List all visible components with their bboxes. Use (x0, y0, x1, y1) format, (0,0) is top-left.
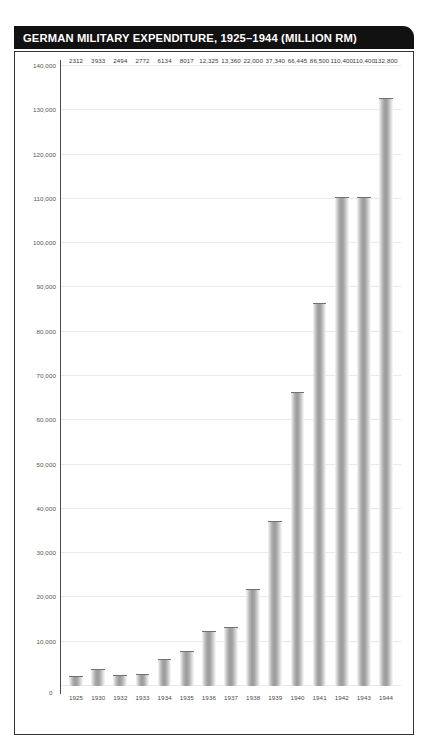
ytick-label: 100,000 (33, 239, 56, 246)
bar-slot: 12,325 (198, 66, 220, 686)
x-axis-tick-label: 1938 (242, 694, 264, 708)
x-axis-tick-label: 1935 (176, 694, 198, 708)
bar-value-label: 2494 (113, 57, 127, 64)
x-axis-tick-label: 1933 (131, 694, 153, 708)
chart-frame: 10,00020,00030,00040,00050,00060,00070,0… (14, 51, 414, 735)
plot-area: 10,00020,00030,00040,00050,00060,00070,0… (61, 66, 401, 686)
bar-value-label: 110,400 (330, 57, 353, 64)
bar-value-label: 37,340 (266, 57, 286, 64)
bar-value-label: 6134 (158, 57, 172, 64)
bar[interactable]: 2312 (69, 676, 83, 686)
chart-page: GERMAN MILITARY EXPENDITURE, 1925–1944 (… (0, 0, 428, 751)
ytick-label: 120,000 (33, 150, 56, 157)
ytick-label: 110,000 (33, 194, 56, 201)
bar-slot: 132,800 (375, 66, 397, 686)
bar[interactable]: 6134 (158, 659, 172, 686)
x-axis-tick-label: 1944 (375, 694, 397, 708)
page-title: GERMAN MILITARY EXPENDITURE, 1925–1944 (… (23, 32, 357, 44)
ytick-label-zero: 0 (49, 689, 52, 696)
bar[interactable]: 12,325 (202, 631, 216, 686)
bars-group: 23123933249427726134801712,32513,36022,0… (61, 66, 401, 686)
ytick-label: 130,000 (33, 106, 56, 113)
bar[interactable]: 66,445 (291, 392, 305, 686)
x-axis-tick-label: 1943 (353, 694, 375, 708)
bar[interactable]: 13,360 (224, 627, 238, 686)
bar-value-label: 86,500 (310, 57, 330, 64)
bar-slot: 2494 (109, 66, 131, 686)
x-axis-tick-label: 1932 (109, 694, 131, 708)
x-axis-tick-label: 1941 (309, 694, 331, 708)
plot-wrapper: 10,00020,00030,00040,00050,00060,00070,0… (15, 52, 413, 734)
bar[interactable]: 22,000 (246, 589, 260, 686)
ytick-label: 70,000 (36, 372, 56, 379)
x-axis-tick-label: 1937 (220, 694, 242, 708)
x-axis-tick-label: 1940 (286, 694, 308, 708)
bar-value-label: 132,800 (374, 57, 397, 64)
bar-slot: 22,000 (242, 66, 264, 686)
ytick-label: 80,000 (36, 327, 56, 334)
bar-value-label: 8017 (180, 57, 194, 64)
bar-slot: 2312 (65, 66, 87, 686)
bar[interactable]: 110,400 (357, 197, 371, 686)
bar[interactable]: 8017 (180, 651, 194, 687)
ytick-label: 140,000 (33, 62, 56, 69)
bar-slot: 37,340 (264, 66, 286, 686)
ytick-label: 40,000 (36, 504, 56, 511)
ytick-label: 90,000 (36, 283, 56, 290)
bar[interactable]: 2772 (136, 674, 150, 686)
x-axis-tick-label: 1939 (264, 694, 286, 708)
bar-slot: 66,445 (286, 66, 308, 686)
chart-title-bar: GERMAN MILITARY EXPENDITURE, 1925–1944 (… (14, 26, 414, 49)
ytick-label: 60,000 (36, 416, 56, 423)
bar-value-label: 13,360 (221, 57, 241, 64)
bar[interactable]: 2494 (113, 675, 127, 686)
bar-value-label: 110,400 (353, 57, 376, 64)
bar[interactable]: 37,340 (268, 521, 282, 686)
x-axis-tick-label: 1936 (198, 694, 220, 708)
ytick-label: 30,000 (36, 549, 56, 556)
x-axis-tick-label: 1925 (65, 694, 87, 708)
x-axis-tick-label: 1942 (331, 694, 353, 708)
bar[interactable]: 86,500 (313, 303, 327, 686)
bar-value-label: 3933 (91, 57, 105, 64)
bar-slot: 2772 (131, 66, 153, 686)
bar-slot: 3933 (87, 66, 109, 686)
ytick-label: 20,000 (36, 593, 56, 600)
bar-value-label: 12,325 (199, 57, 219, 64)
bar-value-label: 2312 (69, 57, 83, 64)
bar-value-label: 66,445 (288, 57, 308, 64)
x-axis-labels: 1925193019321933193419351936193719381939… (61, 694, 401, 708)
bar-value-label: 22,000 (243, 57, 263, 64)
bar[interactable]: 3933 (91, 669, 105, 686)
ytick-label: 50,000 (36, 460, 56, 467)
bar-slot: 8017 (176, 66, 198, 686)
bar[interactable]: 110,400 (335, 197, 349, 686)
bar-slot: 110,400 (353, 66, 375, 686)
bar-slot: 110,400 (331, 66, 353, 686)
bar-slot: 6134 (154, 66, 176, 686)
bar-value-label: 2772 (135, 57, 149, 64)
x-axis-tick-label: 1934 (154, 694, 176, 708)
bar-slot: 13,360 (220, 66, 242, 686)
bar-slot: 86,500 (309, 66, 331, 686)
bar[interactable]: 132,800 (379, 98, 393, 686)
x-axis-tick-label: 1930 (87, 694, 109, 708)
ytick-label: 10,000 (36, 637, 56, 644)
